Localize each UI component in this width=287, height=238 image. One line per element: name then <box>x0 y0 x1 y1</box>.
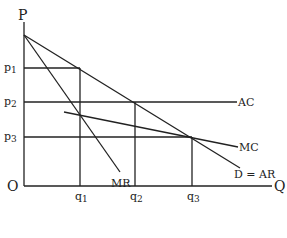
q3-label: q3 <box>187 190 200 204</box>
x-axis-label: Q <box>274 178 285 194</box>
monopoly-diagram: P Q O p1 p2 p3 q1 q2 q3 AC MC MR D = AR <box>0 0 287 238</box>
p2-label: p2 <box>4 95 17 109</box>
mr-curve <box>24 35 120 172</box>
y-axis-label: P <box>18 7 27 23</box>
mc-label: MC <box>239 141 259 154</box>
p1-label: p1 <box>4 61 17 75</box>
q1-label: q1 <box>75 190 88 204</box>
ac-label: AC <box>237 96 254 109</box>
mr-label: MR <box>111 177 131 190</box>
demand-label: D = AR <box>234 168 276 181</box>
origin-label: O <box>7 178 18 194</box>
p3-label: p3 <box>4 130 17 144</box>
q2-label: q2 <box>130 190 143 204</box>
